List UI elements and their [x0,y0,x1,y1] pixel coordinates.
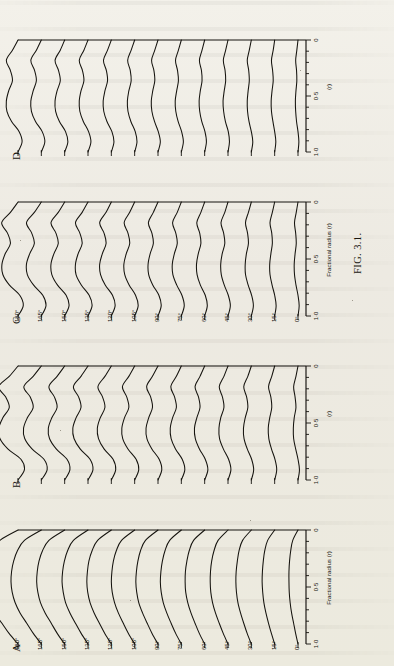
panel-b-axis-title: (r) [325,334,332,494]
curve-165deg [31,40,45,152]
panel-c-plot [6,170,336,330]
curve-180deg [0,530,18,644]
curve-0deg [289,530,298,644]
curve-120deg [100,202,116,316]
panel-b-letter: B [10,480,22,488]
curve-180deg [6,40,22,152]
paper-speck [130,600,131,601]
curve-15deg [268,366,277,480]
curve-15deg [262,530,275,644]
curve-180deg [2,202,24,316]
x-tick-label: 0 [313,200,319,203]
curve-15deg [271,40,276,152]
curve-45deg [210,530,228,644]
x-tick-label: 0·5 [313,92,319,101]
panel-d: D (r) 1·00·50 [6,8,336,166]
panel-d-plot [6,8,336,166]
curve-90deg [146,366,162,480]
curve-45deg [223,40,229,152]
curve-135deg [62,530,88,644]
x-tick-label: 1·0 [313,148,319,157]
x-tick-label: 0·5 [313,419,319,428]
curve-90deg [151,40,160,152]
figure-3-1: A Fractional radius (r) 1·00·50180°165°1… [0,0,394,666]
curve-150deg [55,40,68,152]
curve-120deg [87,530,112,644]
curve-180deg [0,366,25,480]
x-tick-label: 0·5 [313,583,319,592]
x-tick-label: 0 [313,38,319,41]
curve-0deg [294,202,299,316]
curve-30deg [247,40,253,152]
curve-60deg [199,40,206,152]
x-tick-label: 1·0 [313,476,319,485]
curve-135deg [73,366,93,480]
curve-105deg [122,366,139,480]
x-tick-label: 1·0 [313,640,319,649]
curve-120deg [97,366,116,480]
panel-c: C Fractional radius (r) 1·00·50180°165°1… [6,170,336,330]
panel-a: A Fractional radius (r) 1·00·50180°165°1… [6,498,336,658]
paper-speck [60,430,61,431]
panel-b-plot [6,334,336,494]
curve-0deg [295,40,299,152]
curve-75deg [170,366,185,480]
curve-30deg [236,530,251,644]
curve-30deg [245,202,253,316]
curve-135deg [75,202,92,316]
panel-c-axis-title: Fractional radius (r) [325,170,332,330]
curve-120deg [103,40,114,152]
paper-speck [300,70,301,71]
x-tick-label: 0 [313,364,319,367]
curve-165deg [23,366,47,480]
curve-60deg [196,202,207,316]
curve-90deg [148,202,161,316]
x-tick-label: 1·0 [313,312,319,321]
curve-105deg [127,40,137,152]
panel-d-letter: D [10,152,22,160]
panel-a-plot [6,498,336,658]
panel-a-axis-title: Fractional radius (r) [325,498,332,658]
curve-60deg [185,530,205,644]
curve-105deg [124,202,138,316]
curve-150deg [48,366,70,480]
curve-45deg [219,366,231,480]
curve-90deg [136,530,158,644]
paper-speck [20,240,21,241]
x-tick-label: 0·5 [313,255,319,264]
curve-165deg [26,202,46,316]
curve-45deg [221,202,231,316]
curve-30deg [243,366,253,480]
curve-0deg [293,366,299,480]
figure-caption: FIG. 3.1. [352,232,363,274]
panel-b: B (r) 1·00·50 [6,334,336,494]
paper-speck [250,520,251,521]
curve-135deg [79,40,91,152]
curve-75deg [160,530,181,644]
x-tick-label: 0 [313,528,319,531]
curve-75deg [175,40,183,152]
curve-15deg [270,202,276,316]
curve-150deg [37,530,65,644]
curve-150deg [51,202,69,316]
curve-105deg [111,530,134,644]
curve-60deg [194,366,208,480]
rotated-figure-wrapper: A Fractional radius (r) 1·00·50180°165°1… [0,0,394,666]
panel-d-axis-title: (r) [325,8,332,166]
curve-75deg [172,202,184,316]
paper-speck [352,300,353,301]
